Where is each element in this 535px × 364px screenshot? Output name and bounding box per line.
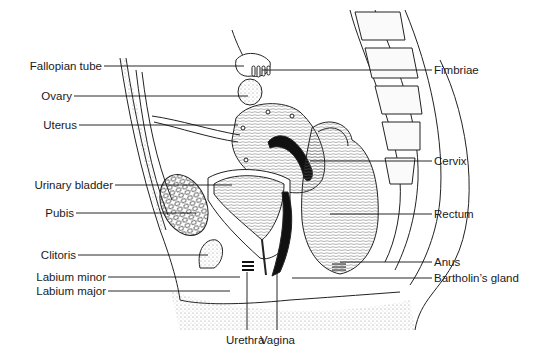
label-clitoris: Clitoris	[41, 249, 76, 262]
label-cervix: Cervix	[434, 155, 467, 168]
label-ovary: Ovary	[41, 90, 72, 103]
label-urinary-bladder: Urinary bladder	[34, 179, 113, 192]
clitoris-shape	[199, 240, 222, 268]
label-fallopian-tube: Fallopian tube	[30, 60, 102, 73]
label-bartholins-gland: Bartholin’s gland	[434, 272, 519, 285]
label-rectum: Rectum	[434, 208, 474, 221]
urethral-sphincter	[242, 262, 254, 270]
label-fimbriae: Fimbriae	[434, 64, 479, 77]
label-uterus: Uterus	[43, 119, 77, 132]
label-labium-major: Labium major	[36, 285, 106, 298]
label-vagina: Vagina	[260, 334, 295, 347]
label-pubis: Pubis	[45, 207, 74, 220]
rectum-shape	[302, 122, 379, 274]
anatomy-diagram: Fallopian tube Ovary Uterus Urinary blad…	[0, 0, 535, 364]
label-urethra: Urethra	[226, 334, 264, 347]
label-labium-minor: Labium minor	[36, 271, 106, 284]
label-anus: Anus	[434, 256, 460, 269]
